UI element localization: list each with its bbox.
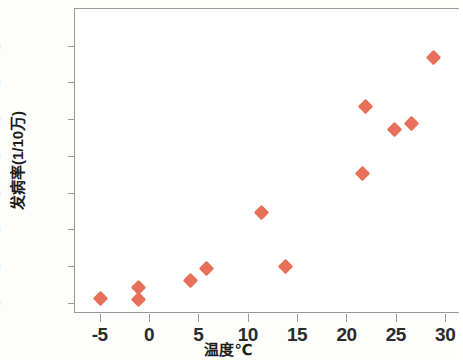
data-point (93, 291, 109, 307)
y-axis-tick (68, 119, 75, 120)
y-axis-tick (68, 46, 75, 47)
data-point (387, 121, 403, 137)
plot-area: 010203040506070 -5051015202530 (74, 8, 459, 313)
data-point (426, 50, 442, 66)
data-point-layer (75, 9, 460, 314)
x-axis-tick (100, 314, 101, 322)
data-point (354, 166, 370, 182)
x-axis-title: 温度℃ (0, 338, 457, 359)
y-axis-tick (68, 266, 75, 267)
x-axis-tick (297, 314, 298, 322)
x-axis-tick (445, 314, 446, 322)
y-axis-tick (68, 156, 75, 157)
data-point (183, 272, 199, 288)
y-axis-tick (68, 303, 75, 304)
data-point (357, 99, 373, 115)
x-axis-tick (198, 314, 199, 322)
data-point (199, 261, 215, 277)
y-axis-tick (68, 82, 75, 83)
data-point (254, 205, 270, 221)
x-axis-tick (346, 314, 347, 322)
x-axis-tick (248, 314, 249, 322)
y-axis-tick (68, 229, 75, 230)
x-axis-tick (149, 314, 150, 322)
x-axis-tick (396, 314, 397, 322)
data-point (277, 258, 293, 274)
y-axis-title: 发病率(1/10万) (7, 110, 28, 209)
data-point (404, 116, 420, 132)
y-axis-title-container: 发病率(1/10万) (2, 0, 32, 320)
data-point (130, 292, 146, 308)
y-axis-tick (68, 193, 75, 194)
